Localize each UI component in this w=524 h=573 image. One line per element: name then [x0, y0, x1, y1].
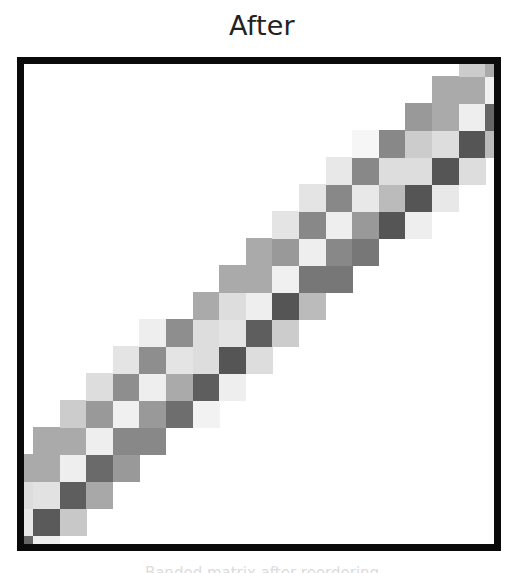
matrix-cell — [459, 64, 486, 77]
matrix-cell — [352, 238, 379, 266]
matrix-cell — [193, 319, 220, 347]
matrix-cell — [246, 319, 273, 347]
matrix-cell — [113, 400, 140, 428]
matrix-cell — [432, 130, 459, 158]
matrix-cell — [33, 454, 60, 482]
matrix-cell — [33, 481, 60, 509]
matrix-cell — [86, 373, 113, 401]
matrix-cell — [379, 211, 406, 239]
matrix-cell — [60, 508, 87, 536]
matrix-cell — [139, 400, 166, 428]
matrix-cell — [405, 211, 432, 239]
matrix-cell — [139, 373, 166, 401]
matrix-cell — [432, 103, 459, 131]
matrix-cell — [86, 427, 113, 455]
matrix-cell — [60, 454, 87, 482]
matrix-cell — [33, 427, 60, 455]
matrix-cell — [86, 400, 113, 428]
matrix-cell — [193, 292, 220, 320]
matrix-cell — [60, 400, 87, 428]
matrix-cell — [139, 427, 166, 455]
matrix-cell — [326, 157, 353, 185]
matrix-cell — [352, 211, 379, 239]
matrix-cell — [299, 265, 326, 293]
matrix-cell — [485, 130, 494, 158]
matrix-cell — [459, 76, 486, 104]
matrix-cell — [219, 292, 246, 320]
matrix-cell — [272, 265, 299, 293]
matrix-cell — [139, 319, 166, 347]
matrix-cell — [379, 184, 406, 212]
matrix-cell — [166, 319, 193, 347]
matrix-cell — [432, 157, 459, 185]
matrix-cell — [405, 130, 432, 158]
figure-title: After — [0, 10, 524, 41]
banded-matrix-grid — [24, 64, 494, 544]
matrix-cell — [352, 157, 379, 185]
matrix-cell — [246, 346, 273, 374]
matrix-cell — [272, 319, 299, 347]
matrix-cell — [272, 238, 299, 266]
matrix-cell — [326, 238, 353, 266]
matrix-cell — [352, 184, 379, 212]
matrix-cell — [299, 292, 326, 320]
matrix-cell — [166, 346, 193, 374]
matrix-cell — [113, 346, 140, 374]
matrix-cell — [86, 481, 113, 509]
matrix-cell — [219, 319, 246, 347]
matrix-cell — [60, 427, 87, 455]
matrix-cell — [485, 103, 494, 131]
matrix-cell — [405, 157, 432, 185]
matrix-cell — [326, 184, 353, 212]
matrix-frame — [17, 57, 501, 551]
matrix-cell — [166, 400, 193, 428]
matrix-cell — [299, 238, 326, 266]
matrix-cell — [246, 265, 273, 293]
matrix-cell — [459, 103, 486, 131]
matrix-cell — [113, 454, 140, 482]
matrix-cell — [60, 481, 87, 509]
matrix-cell — [459, 130, 486, 158]
matrix-cell — [485, 64, 494, 77]
matrix-cell — [379, 157, 406, 185]
matrix-cell — [166, 373, 193, 401]
matrix-cell — [219, 265, 246, 293]
matrix-cell — [459, 157, 486, 185]
matrix-cell — [219, 346, 246, 374]
matrix-cell — [405, 184, 432, 212]
matrix-cell — [299, 184, 326, 212]
matrix-cell — [432, 76, 459, 104]
figure-caption: Banded matrix after reordering — [0, 562, 524, 573]
matrix-cell — [299, 211, 326, 239]
matrix-cell — [272, 292, 299, 320]
matrix-cell — [432, 184, 459, 212]
matrix-cell — [246, 238, 273, 266]
matrix-cell — [86, 454, 113, 482]
matrix-cell — [326, 265, 353, 293]
matrix-cell — [352, 130, 379, 158]
matrix-cell — [33, 508, 60, 536]
matrix-cell — [113, 427, 140, 455]
matrix-cell — [246, 292, 273, 320]
matrix-cell — [193, 346, 220, 374]
matrix-cell — [139, 346, 166, 374]
matrix-cell — [193, 373, 220, 401]
matrix-cell — [379, 130, 406, 158]
matrix-cell — [33, 535, 60, 545]
matrix-cell — [113, 373, 140, 401]
matrix-cell — [219, 373, 246, 401]
matrix-cell — [326, 211, 353, 239]
matrix-cell — [193, 400, 220, 428]
matrix-cell — [405, 103, 432, 131]
matrix-cell — [485, 76, 494, 104]
matrix-cell — [272, 211, 299, 239]
